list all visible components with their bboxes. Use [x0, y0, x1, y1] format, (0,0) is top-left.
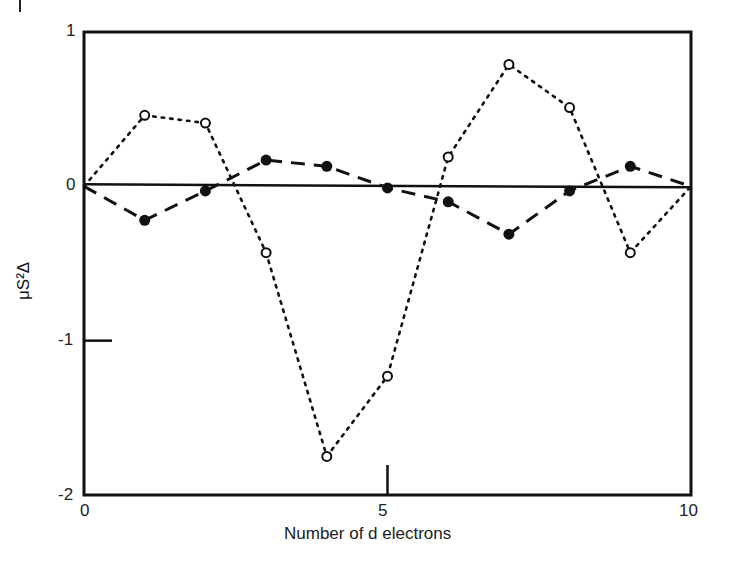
y-axis-label: μS²Δ — [14, 262, 34, 300]
plot-frame — [84, 32, 691, 495]
filled-circle-marker — [200, 185, 211, 196]
y-tick-minus-2: -2 — [58, 486, 73, 503]
series-line-1 — [84, 64, 691, 456]
open-circle-marker — [504, 60, 513, 69]
filled-circle-marker — [382, 182, 393, 193]
open-circle-marker — [383, 372, 392, 381]
x-tick-0: 0 — [80, 502, 89, 519]
line-chart — [0, 0, 735, 567]
y-tick-minus-1: -1 — [58, 331, 73, 348]
open-circle-marker — [444, 153, 453, 162]
y-tick-0: 0 — [66, 176, 75, 193]
filled-circle-marker — [321, 161, 332, 172]
filled-circle-marker — [443, 196, 454, 207]
open-circle-marker — [565, 103, 574, 112]
filled-circle-marker — [139, 215, 150, 226]
x-axis-label: Number of d electrons — [284, 525, 451, 542]
open-circle-marker — [140, 111, 149, 120]
plot-area — [84, 32, 691, 495]
filled-circle-marker — [503, 229, 514, 240]
x-tick-5: 5 — [378, 502, 387, 519]
open-circle-marker — [262, 248, 271, 257]
open-circle-marker — [322, 452, 331, 461]
open-circle-marker — [201, 119, 210, 128]
open-circle-marker — [626, 248, 635, 257]
filled-circle-marker — [625, 161, 636, 172]
filled-circle-marker — [564, 185, 575, 196]
y-tick-1: 1 — [66, 22, 75, 39]
x-tick-10: 10 — [679, 502, 698, 519]
filled-circle-marker — [261, 155, 272, 166]
series-line-2 — [84, 160, 691, 234]
